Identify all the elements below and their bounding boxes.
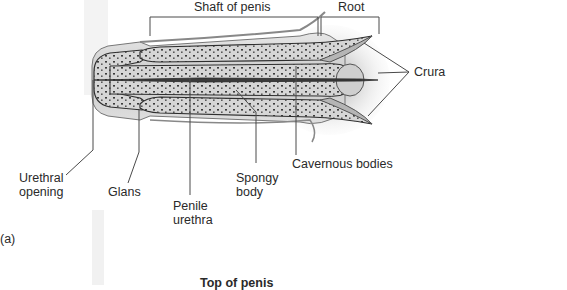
background-smudge (92, 210, 104, 285)
label-shaft-of-penis: Shaft of penis (194, 0, 270, 14)
label-root: Root (338, 0, 364, 14)
label-spongy-body-line2: body (236, 185, 263, 199)
label-glans: Glans (108, 185, 141, 199)
panel-label-a: (a) (0, 232, 15, 246)
label-cavernous-bodies: Cavernous bodies (292, 157, 393, 171)
label-spongy-body-line1: Spongy (236, 171, 278, 185)
label-penile-urethra-line1: Penile (173, 199, 208, 213)
next-panel-heading: Top of penis (200, 276, 273, 290)
label-urethral-opening-line1: Urethral (19, 171, 63, 185)
shaft-bracket (150, 17, 318, 36)
label-penile-urethra-line2: urethra (173, 213, 213, 227)
label-urethral-opening-line2: opening (19, 185, 64, 199)
label-crura: Crura (414, 65, 445, 79)
ventral-skin-fold (150, 120, 315, 142)
